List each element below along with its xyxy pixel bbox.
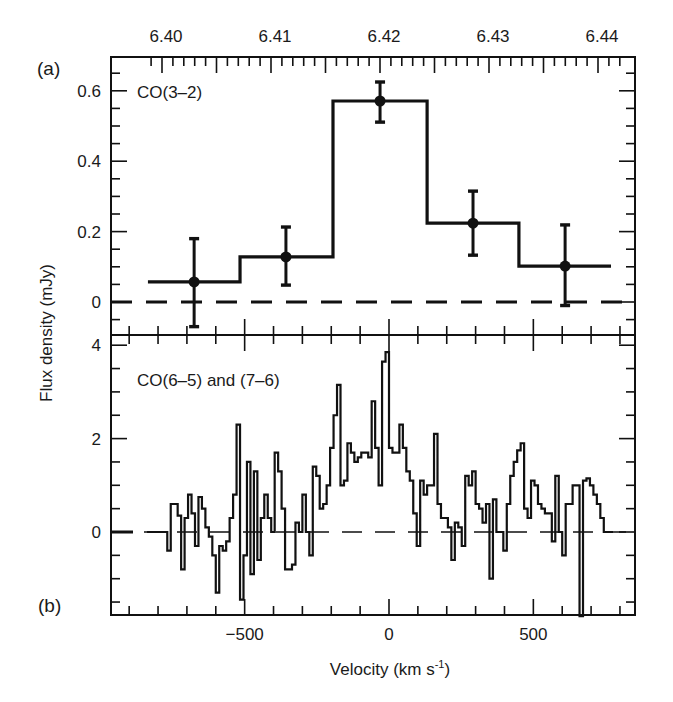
- svg-text:4: 4: [92, 336, 101, 355]
- x-axis-label: Velocity (km s-1): [330, 658, 450, 679]
- panel-b-title: CO(6–5) and (7–6): [137, 371, 280, 390]
- svg-text:−500: −500: [226, 625, 264, 644]
- svg-text:6.40: 6.40: [149, 27, 182, 46]
- panel-b-plot: [111, 352, 635, 616]
- svg-text:0: 0: [384, 625, 393, 644]
- panel-b-label: (b): [38, 595, 61, 616]
- panel-a-title: CO(3–2): [137, 83, 202, 102]
- y-axis-label: Flux density (mJy): [37, 264, 56, 402]
- svg-text:2: 2: [92, 430, 101, 449]
- svg-text:6.43: 6.43: [476, 27, 509, 46]
- panel-a-label: (a): [37, 58, 60, 79]
- svg-text:0: 0: [92, 293, 101, 312]
- svg-text:0.2: 0.2: [77, 223, 101, 242]
- svg-text:6.41: 6.41: [258, 27, 291, 46]
- svg-text:0: 0: [92, 523, 101, 542]
- svg-text:6.42: 6.42: [367, 27, 400, 46]
- svg-text:6.44: 6.44: [585, 27, 618, 46]
- panel-a-plot: [111, 82, 635, 327]
- svg-text:0.6: 0.6: [77, 82, 101, 101]
- svg-text:0.4: 0.4: [77, 152, 101, 171]
- svg-text:500: 500: [519, 625, 547, 644]
- figure: 6.406.416.426.436.44−500050000.20.40.602…: [0, 0, 673, 702]
